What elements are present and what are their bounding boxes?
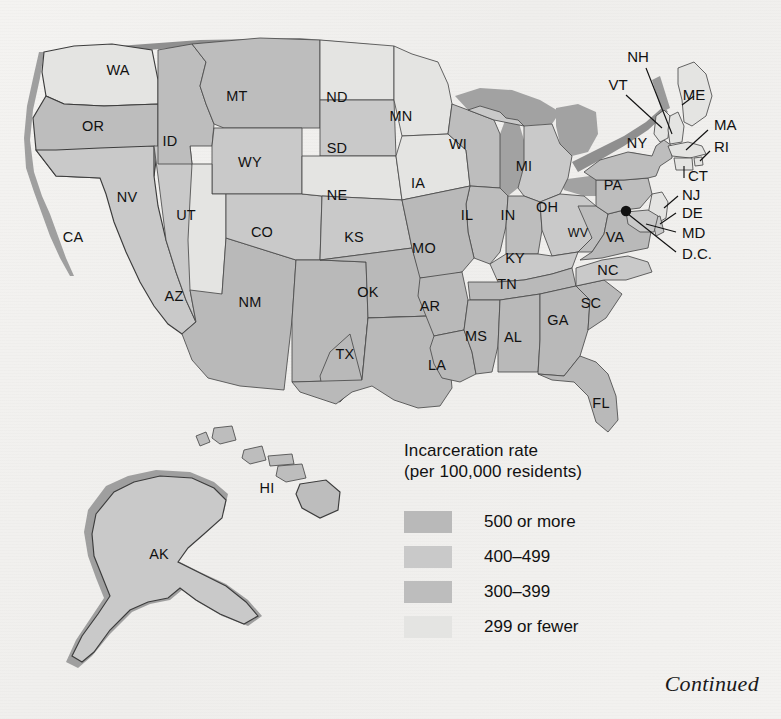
label-CA: CA [63,229,84,245]
label-NM: NM [239,294,262,310]
state-RI[interactable] [694,157,703,166]
legend-label-299-fewer: 299 or fewer [484,617,579,637]
label-OH: OH [536,199,558,215]
continued-note: Continued [665,671,759,697]
label-LA: LA [428,357,446,373]
legend-row-299-fewer[interactable]: 299 or fewer [404,609,644,644]
label-IA: IA [411,175,425,191]
callout-CT: CT [688,167,708,184]
label-NY: NY [627,135,648,151]
label-UT: UT [176,207,196,223]
state-MT[interactable] [192,38,320,128]
label-NC: NC [597,262,618,278]
label-FL: FL [592,395,609,411]
callout-MA: MA [714,116,737,133]
legend-row-500-plus[interactable]: 500 or more [404,504,644,539]
label-ID: ID [163,133,178,149]
label-KS: KS [344,229,364,245]
label-AR: AR [420,298,441,314]
label-WI: WI [449,136,467,152]
label-KY: KY [505,250,525,266]
state-HI-kauai[interactable] [212,426,236,444]
label-AK: AK [149,546,169,562]
legend-swatch-300-399 [404,581,452,603]
us-choropleth-map: WA OR CA NV ID MT WY UT AZ CO NM ND SD N… [0,0,781,719]
state-WA[interactable] [42,44,158,106]
legend-label-400-499: 400–499 [484,547,550,567]
state-NH[interactable] [668,112,684,144]
label-IN: IN [501,207,516,223]
callout-ME: ME [683,86,706,103]
label-MN: MN [390,108,413,124]
callout-VT: VT [608,76,627,93]
region-alaska [66,470,262,668]
label-MI: MI [516,158,533,174]
legend-swatch-400-499 [404,546,452,568]
state-HI-bigisland[interactable] [296,480,340,518]
label-PA: PA [604,177,623,193]
legend-title-line1: Incarceration rate [404,440,644,461]
label-MO: MO [412,240,436,256]
callout-DE: DE [682,204,703,221]
state-HI-maui[interactable] [276,464,306,482]
label-OR: OR [82,118,104,134]
region-west [33,38,368,390]
dc-dot-marker [621,206,631,216]
label-ND: ND [326,89,347,105]
label-CO: CO [251,224,273,240]
callout-DC: D.C. [682,245,712,262]
callout-NH: NH [627,48,649,65]
callout-RI: RI [714,138,729,155]
legend-swatch-500-plus [404,511,452,533]
label-TN: TN [497,276,517,292]
label-MS: MS [465,328,487,344]
label-GA: GA [547,312,568,328]
label-MT: MT [226,88,247,104]
label-SC: SC [581,295,602,311]
callout-MD: MD [682,224,705,241]
legend-row-300-399[interactable]: 300–399 [404,574,644,609]
state-HI-molokai[interactable] [268,454,294,466]
label-WV: WV [568,226,589,240]
label-OK: OK [357,284,378,300]
label-IL: IL [461,207,474,223]
label-AZ: AZ [165,288,184,304]
state-HI-niihau[interactable] [196,432,210,446]
legend-row-400-499[interactable]: 400–499 [404,539,644,574]
map-legend: Incarceration rate (per 100,000 resident… [404,440,644,644]
legend-label-300-399: 300–399 [484,582,550,602]
label-NE: NE [327,187,348,203]
state-NE[interactable] [302,156,402,200]
state-HI-oahu[interactable] [242,446,266,464]
callout-NJ: NJ [682,186,700,203]
legend-label-500-plus: 500 or more [484,512,576,532]
label-WY: WY [238,154,262,170]
label-AL: AL [504,329,522,345]
label-SD: SD [327,140,348,156]
label-NV: NV [117,189,138,205]
label-HI: HI [260,480,275,496]
label-TX: TX [336,346,355,362]
legend-swatch-299-fewer [404,616,452,638]
state-MA[interactable] [668,142,706,158]
label-WA: WA [106,62,129,78]
label-VA: VA [606,229,625,245]
legend-title-line2: (per 100,000 residents) [404,461,644,482]
legend-title: Incarceration rate (per 100,000 resident… [404,440,644,482]
